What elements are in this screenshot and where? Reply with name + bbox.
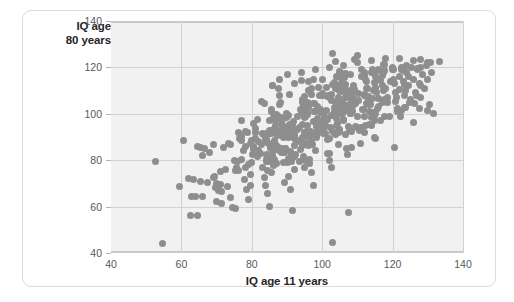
scatter-point: [344, 151, 351, 158]
scatter-point: [381, 96, 388, 103]
scatter-point: [291, 166, 298, 173]
scatter-point: [358, 73, 365, 80]
scatter-point: [284, 71, 291, 78]
scatter-point: [349, 103, 356, 110]
scatter-point: [332, 98, 339, 105]
scatter-point: [298, 77, 305, 84]
scatter-point: [416, 105, 423, 112]
scatter-point: [159, 240, 166, 247]
scatter-point: [218, 200, 225, 207]
scatter-point: [326, 157, 333, 164]
chart-card: IQ age 80 years 406080100120140 40608010…: [22, 10, 496, 287]
scatter-point: [340, 116, 347, 123]
scatter-point: [329, 50, 336, 57]
scatter-point: [238, 156, 245, 163]
scatter-point: [319, 90, 326, 97]
scatter-point: [402, 87, 409, 94]
scatter-point: [270, 116, 277, 123]
y-tick-label: 120: [72, 61, 102, 73]
scatter-point: [227, 194, 234, 201]
scatter-point: [410, 119, 417, 126]
x-tick-label: 120: [373, 258, 413, 270]
plot-bottom-edge: [111, 251, 463, 253]
scatter-point: [247, 171, 254, 178]
scatter-point: [238, 117, 245, 124]
scatter-point: [235, 167, 242, 174]
scatter-point: [348, 144, 355, 151]
scatter-point: [319, 76, 326, 83]
x-tick-label: 140: [443, 258, 483, 270]
scatter-point: [346, 127, 353, 134]
scatter-point: [436, 58, 443, 65]
scatter-point: [152, 158, 159, 165]
y-tick-label: 140: [72, 15, 102, 27]
scatter-point: [372, 85, 379, 92]
scatter-point: [262, 182, 269, 189]
scatter-point: [276, 92, 283, 99]
plot-top-edge: [111, 21, 463, 23]
scatter-point: [281, 179, 288, 186]
scatter-point: [180, 137, 187, 144]
scatter-point: [310, 100, 317, 107]
gridline-horizontal: [111, 207, 463, 208]
scatter-point: [348, 109, 355, 116]
y-axis-title-line-2: 80 years: [43, 33, 111, 47]
scatter-point: [289, 207, 296, 214]
scatter-point: [291, 80, 298, 87]
scatter-point: [286, 91, 293, 98]
x-tick-label: 60: [161, 258, 201, 270]
scatter-point: [190, 176, 197, 183]
scatter-point: [427, 59, 434, 66]
scatter-point: [351, 56, 358, 63]
y-tick-label: 100: [72, 108, 102, 120]
scatter-point: [192, 193, 199, 200]
scatter-point: [424, 107, 431, 114]
scatter-point: [335, 141, 342, 148]
scatter-point: [329, 239, 336, 246]
x-tick-label: 100: [302, 258, 342, 270]
scatter-point: [335, 129, 342, 136]
scatter-point: [363, 100, 370, 107]
scatter-point: [334, 110, 341, 117]
scatter-point: [210, 141, 217, 148]
scatter-point: [287, 186, 294, 193]
scatter-point: [396, 55, 403, 62]
gridline-vertical: [393, 21, 394, 253]
scatter-point: [199, 152, 206, 159]
scatter-point: [285, 112, 292, 119]
scatter-point: [357, 140, 364, 147]
x-tick-label: 40: [91, 258, 131, 270]
scatter-point: [301, 93, 308, 100]
scatter-point: [310, 182, 317, 189]
scatter-point: [227, 141, 234, 148]
scatter-point: [417, 82, 424, 89]
scatter-point: [187, 212, 194, 219]
scatter-point: [278, 145, 285, 152]
y-tick-label: 60: [72, 201, 102, 213]
scatter-point: [312, 147, 319, 154]
gridline-vertical: [463, 21, 464, 253]
scatter-point: [322, 130, 329, 137]
scatter-point: [390, 66, 397, 73]
scatter-point: [369, 95, 376, 102]
scatter-point: [254, 153, 261, 160]
y-tick-label: 80: [72, 154, 102, 166]
scatter-point: [391, 144, 398, 151]
scatter-point: [199, 193, 206, 200]
scatter-point: [276, 76, 283, 83]
scatter-point: [379, 72, 386, 79]
scatter-point: [303, 140, 310, 147]
scatter-point: [380, 87, 387, 94]
x-tick-label: 80: [232, 258, 272, 270]
scatter-point: [390, 76, 397, 83]
scatter-point: [405, 73, 412, 80]
scatter-point: [308, 169, 315, 176]
scatter-point: [277, 99, 284, 106]
scatter-point: [424, 76, 431, 83]
scatter-point: [310, 76, 317, 83]
scatter-point: [332, 58, 339, 65]
scatter-point: [298, 69, 305, 76]
scatter-point: [264, 190, 271, 197]
scatter-point: [282, 126, 289, 133]
scatter-point: [428, 69, 435, 76]
